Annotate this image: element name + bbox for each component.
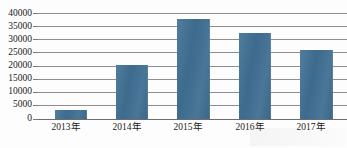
bar-chart-figure: 40000 35000 30000 25000 20000 15000 1000… [0,0,347,148]
x-axis-tick-label: 2016年 [217,122,283,133]
figure-caption-clipped [108,143,288,148]
y-axis-tick-label: 25000 [0,47,32,57]
bar-2013 [55,110,87,119]
y-axis-tick-label: 10000 [0,86,32,96]
bar-2016 [239,33,271,119]
plot-area [38,13,344,119]
y-axis-tick-label: 30000 [0,34,32,44]
y-axis-tick-label: 5000 [0,99,32,109]
bar-2014 [116,65,148,119]
bar-2017 [300,50,333,119]
x-axis-tick-label: 2015年 [155,122,221,133]
gridline-40000 [38,13,347,14]
y-axis-tick-label: 15000 [0,73,32,83]
x-axis-tick-label: 2017年 [278,122,344,133]
x-axis-line [38,119,347,120]
y-axis-tick-label: 0 [0,113,32,123]
y-axis-tick-label: 20000 [0,60,32,70]
y-axis-tick-label: 40000 [0,8,32,18]
x-axis-tick-label: 2014年 [94,122,160,133]
y-axis-tick-label: 35000 [0,21,32,31]
bar-2015 [177,19,210,119]
x-axis-tick-label: 2013年 [33,122,99,133]
